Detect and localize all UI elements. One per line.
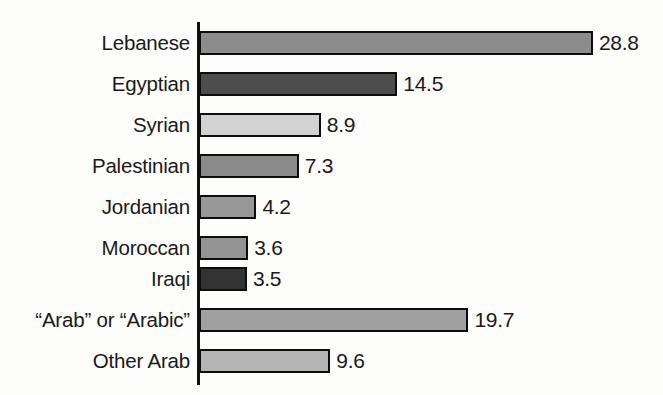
bar-row: Jordanian 4.2 bbox=[0, 186, 663, 227]
category-label: “Arab” or “Arabic” bbox=[0, 299, 190, 340]
category-label: Syrian bbox=[0, 104, 190, 145]
category-label: Jordanian bbox=[0, 186, 190, 227]
value-label: 7.3 bbox=[305, 145, 333, 186]
bar-syrian bbox=[199, 113, 321, 137]
bar-row: Other Arab 9.6 bbox=[0, 340, 663, 381]
bar-iraqi bbox=[199, 267, 247, 291]
bar-arab-or-arabic bbox=[199, 308, 468, 332]
bar-row: Syrian 8.9 bbox=[0, 104, 663, 145]
value-label: 3.5 bbox=[253, 258, 281, 299]
value-label: 9.6 bbox=[336, 340, 364, 381]
value-label: 8.9 bbox=[327, 104, 355, 145]
bar-row: Lebanese 28.8 bbox=[0, 22, 663, 63]
bar-egyptian bbox=[199, 72, 397, 96]
value-label: 28.8 bbox=[599, 22, 639, 63]
bar-row: Egyptian 14.5 bbox=[0, 63, 663, 104]
bar-chart: Lebanese 28.8 Egyptian 14.5 Syrian 8.9 P… bbox=[0, 0, 663, 395]
bar-row: Palestinian 7.3 bbox=[0, 145, 663, 186]
bar-other-arab bbox=[199, 349, 330, 373]
bar-palestinian bbox=[199, 154, 299, 178]
bar-row: Iraqi 3.5 bbox=[0, 258, 663, 299]
category-label: Egyptian bbox=[0, 63, 190, 104]
category-label: Lebanese bbox=[0, 22, 190, 63]
value-label: 19.7 bbox=[474, 299, 514, 340]
value-label: 14.5 bbox=[403, 63, 443, 104]
category-label: Other Arab bbox=[0, 340, 190, 381]
value-label: 4.2 bbox=[262, 186, 290, 227]
category-label: Iraqi bbox=[0, 258, 190, 299]
bar-lebanese bbox=[199, 31, 593, 55]
bar-row: “Arab” or “Arabic” 19.7 bbox=[0, 299, 663, 340]
bar-moroccan bbox=[199, 236, 248, 260]
category-label: Palestinian bbox=[0, 145, 190, 186]
bar-jordanian bbox=[199, 195, 256, 219]
